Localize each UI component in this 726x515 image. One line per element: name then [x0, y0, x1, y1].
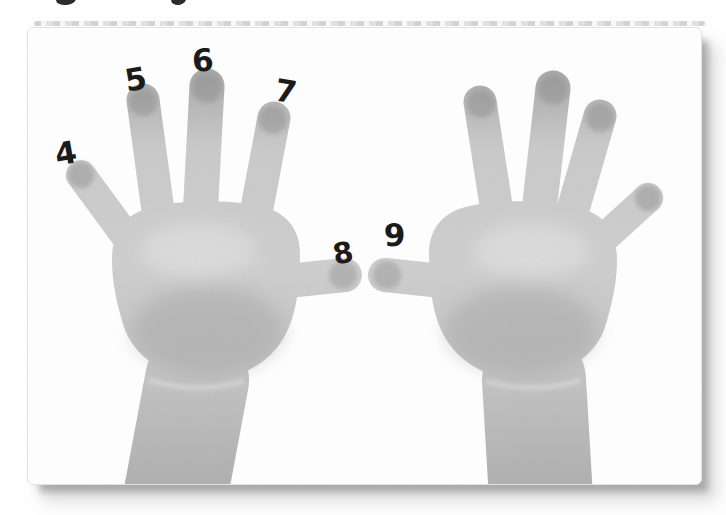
- finger-label-9: 9: [383, 220, 406, 252]
- hands-photo: 4 5 6 7 8 9: [28, 28, 701, 484]
- cropped-text-remnant: [170, 0, 186, 6]
- book-page: { "photo": { "subject": "black-and-white…: [0, 0, 726, 515]
- hands-photo-card: 4 5 6 7 8 9: [27, 27, 702, 485]
- cropped-text-remnant: [55, 0, 76, 6]
- finger-label-6: 6: [191, 44, 215, 77]
